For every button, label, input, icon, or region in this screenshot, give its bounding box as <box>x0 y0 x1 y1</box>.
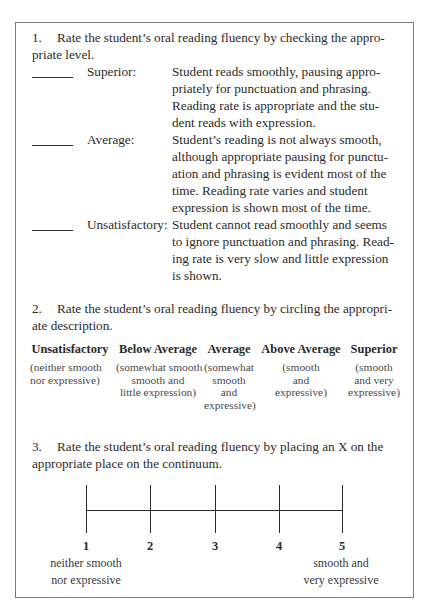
right-label-line: very expressive <box>286 572 396 589</box>
desc-line: Student cannot read smoothly and seems <box>172 216 404 233</box>
continuum-tick-5[interactable] <box>342 485 343 533</box>
section3-prompt-line2: appropriate place on the continuum. <box>32 455 402 472</box>
tick-label-5: 5 <box>332 538 352 555</box>
option-above-average[interactable]: Above Average (smooth and expressive) <box>261 341 341 399</box>
option-desc-line: (smooth <box>347 361 401 374</box>
desc-line: dent reads with expression. <box>172 114 404 131</box>
section1-prompt-line2: priate level. <box>32 46 402 63</box>
option-desc-line: (smooth <box>261 361 341 374</box>
rating-desc-average: Student’s reading is not always smooth, … <box>172 131 404 216</box>
option-desc-line: and <box>261 374 341 387</box>
option-description: (somewhat smooth smooth and little expre… <box>116 361 200 399</box>
section1-prompt: 1.Rate the student’s oral reading fluenc… <box>32 29 402 63</box>
continuum-tick-2[interactable] <box>150 485 151 533</box>
option-heading: Superior <box>347 341 401 357</box>
option-desc-line: smooth and <box>116 374 200 387</box>
continuum-tick-4[interactable] <box>279 485 280 533</box>
section2-prompt-line1: Rate the student’s oral reading fluency … <box>57 301 392 316</box>
desc-line: is shown. <box>172 267 404 284</box>
option-heading: Above Average <box>261 341 341 357</box>
section2-prompt-line2: ate description. <box>32 317 402 334</box>
desc-line: to ignore punctuation and phrasing. Read… <box>172 233 404 250</box>
section3-prompt: 3.Rate the student’s oral reading fluenc… <box>32 438 402 472</box>
desc-line: time. Reading rate varies and student <box>172 182 404 199</box>
continuum-tick-3[interactable] <box>215 485 216 533</box>
option-below-average[interactable]: Below Average (somewhat smooth smooth an… <box>116 341 200 399</box>
desc-line: expression is shown most of the time. <box>172 199 404 216</box>
option-description: (somewhat smooth and expressive) <box>204 361 254 411</box>
desc-line: Reading rate is appropriate and the stu- <box>172 97 404 114</box>
section3-prompt-line1: Rate the student’s oral reading fluency … <box>57 439 383 454</box>
option-description: (smooth and very expressive) <box>347 361 401 399</box>
tick-label-1: 1 <box>76 538 96 555</box>
option-desc-line: little expression) <box>116 386 200 399</box>
section2-prompt: 2.Rate the student’s oral reading fluenc… <box>32 300 402 334</box>
section1-number: 1. <box>32 29 57 46</box>
option-description: (smooth and expressive) <box>261 361 341 399</box>
tick-label-3: 3 <box>205 538 225 555</box>
option-average[interactable]: Average (somewhat smooth and expressive) <box>204 341 254 411</box>
average-check-blank[interactable] <box>32 145 73 146</box>
desc-line: although appropriate pausing for punctu- <box>172 148 404 165</box>
rating-label-unsatisfactory: Unsatisfactory: <box>87 216 168 233</box>
option-desc-line: (neither smooth <box>30 361 110 374</box>
option-desc-line: expressive) <box>261 386 341 399</box>
option-desc-line: and very <box>347 374 401 387</box>
option-heading: Below Average <box>116 341 200 357</box>
option-desc-line: expressive) <box>204 399 254 412</box>
left-label-line: neither smooth <box>31 555 141 572</box>
tick-label-2: 2 <box>140 538 160 555</box>
desc-line: Student’s reading is not always smooth, <box>172 131 404 148</box>
option-desc-line: expressive) <box>347 386 401 399</box>
option-desc-line: (somewhat <box>204 361 254 374</box>
rating-label-superior: Superior: <box>87 63 136 80</box>
option-heading: Unsatisfactory <box>30 341 110 357</box>
option-desc-line: nor expressive) <box>30 374 110 387</box>
section1-prompt-line1: Rate the student’s oral reading fluency … <box>57 30 385 45</box>
continuum-left-label: neither smooth nor expressive <box>31 555 141 589</box>
tick-label-4: 4 <box>269 538 289 555</box>
unsatisfactory-check-blank[interactable] <box>32 230 73 231</box>
superior-check-blank[interactable] <box>32 77 73 78</box>
rating-desc-superior: Student reads smoothly, pausing appro- p… <box>172 63 404 131</box>
option-desc-line: (somewhat smooth <box>116 361 200 374</box>
option-description: (neither smooth nor expressive) <box>30 361 110 386</box>
desc-line: Student reads smoothly, pausing appro- <box>172 63 404 80</box>
option-desc-line: smooth <box>204 374 254 387</box>
rating-desc-unsatisfactory: Student cannot read smoothly and seems t… <box>172 216 404 284</box>
continuum-tick-1[interactable] <box>86 485 87 533</box>
left-label-line: nor expressive <box>31 572 141 589</box>
option-unsatisfactory[interactable]: Unsatisfactory (neither smooth nor expre… <box>30 341 110 386</box>
section3-number: 3. <box>32 438 57 455</box>
option-heading: Average <box>204 341 254 357</box>
section2-number: 2. <box>32 300 57 317</box>
desc-line: priately for punctuation and phrasing. <box>172 80 404 97</box>
continuum-right-label: smooth and very expressive <box>286 555 396 589</box>
rating-label-average: Average: <box>87 131 134 148</box>
right-label-line: smooth and <box>286 555 396 572</box>
desc-line: ation and phrasing is evident most of th… <box>172 165 404 182</box>
desc-line: ing rate is very slow and little express… <box>172 250 404 267</box>
option-superior[interactable]: Superior (smooth and very expressive) <box>347 341 401 399</box>
option-desc-line: and <box>204 386 254 399</box>
